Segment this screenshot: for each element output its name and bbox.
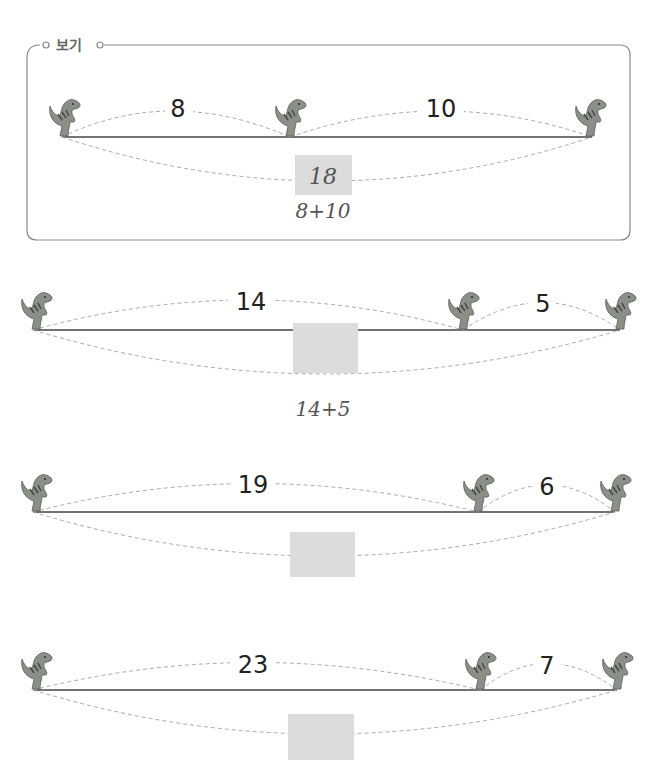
title-bullet-left-icon [43, 42, 49, 48]
dino-icon [22, 652, 52, 689]
segment-label-1: 14 [236, 288, 267, 316]
dino-icon [464, 474, 494, 511]
worksheet-canvas: 보기 8 10 18 8+10 14 5 14+5 [0, 0, 658, 765]
title-bullet-right-icon [97, 42, 103, 48]
dino-icon [603, 652, 633, 689]
problem-3: 23 7 [22, 650, 633, 760]
segment-label-1: 19 [238, 471, 269, 499]
segment-label-2: 7 [539, 652, 554, 680]
example-box: 보기 8 10 18 8+10 [27, 37, 630, 240]
segment-label-2: 5 [535, 290, 550, 318]
dino-icon [449, 292, 479, 329]
answer-expression: 14+5 [296, 397, 351, 421]
problem-2: 19 6 [22, 470, 631, 577]
answer-value: 18 [309, 164, 337, 189]
dino-icon [576, 99, 606, 136]
dino-icon [22, 292, 52, 329]
example-title: 보기 [56, 37, 82, 53]
answer-box[interactable] [293, 323, 358, 373]
dino-icon [466, 652, 496, 689]
answer-box[interactable] [290, 532, 355, 577]
dino-icon [276, 99, 306, 136]
segment-label-2: 6 [539, 473, 554, 501]
answer-expression: 8+10 [296, 199, 351, 223]
segment-label-2: 10 [426, 95, 457, 123]
segment-label-1: 23 [238, 651, 269, 679]
dino-icon [22, 474, 52, 511]
problem-1: 14 5 14+5 [22, 287, 636, 421]
answer-box[interactable] [288, 714, 354, 760]
dino-icon [601, 474, 631, 511]
segment-label-1: 8 [170, 95, 185, 123]
